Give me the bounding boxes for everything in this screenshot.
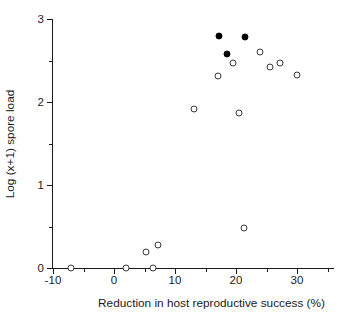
y-tick-minor <box>49 61 52 62</box>
x-tick-label-0: 0 <box>111 274 118 286</box>
x-axis-line <box>52 268 334 269</box>
data-point-filled <box>215 33 222 40</box>
data-point-open <box>123 265 130 272</box>
x-tick-label--10: -10 <box>45 274 62 286</box>
y-axis-line <box>52 19 53 269</box>
data-point-open <box>190 106 197 113</box>
x-tick-minor <box>84 269 85 272</box>
data-point-open <box>154 241 161 248</box>
y-axis-title: Log (x+1) spore load <box>3 90 17 199</box>
data-point-open <box>236 109 243 116</box>
data-point-open <box>294 71 301 78</box>
y-tick-label-3: 3 <box>38 13 45 25</box>
y-tick-label-0: 0 <box>38 262 45 274</box>
y-tick-minor <box>49 144 52 145</box>
data-point-open <box>68 265 75 272</box>
data-point-open <box>214 73 221 80</box>
x-tick-label-10: 10 <box>169 274 182 286</box>
data-point-filled <box>242 34 249 41</box>
data-point-filled <box>223 50 230 57</box>
data-point-open <box>240 225 247 232</box>
y-tick-label-1: 1 <box>38 179 45 191</box>
x-tick-minor <box>206 269 207 272</box>
y-tick-2 <box>47 102 52 103</box>
y-tick-label-2: 2 <box>38 96 45 108</box>
y-tick-minor <box>49 227 52 228</box>
data-point-open <box>150 265 157 272</box>
data-point-open <box>267 64 274 71</box>
scatter-plot-figure: -100102030 0123 Reduction in host reprod… <box>0 0 341 324</box>
y-tick-0 <box>47 268 52 269</box>
data-point-open <box>229 59 236 66</box>
y-tick-3 <box>47 19 52 20</box>
x-tick-minor <box>267 269 268 272</box>
x-axis-title: Reduction in host reproductive success (… <box>98 296 325 310</box>
data-point-open <box>276 59 283 66</box>
x-tick-minor <box>328 269 329 272</box>
data-point-open <box>256 49 263 56</box>
x-tick-label-20: 20 <box>230 274 243 286</box>
data-point-open <box>143 249 150 256</box>
x-tick-minor <box>145 269 146 272</box>
plot-area: -100102030 0123 <box>0 0 341 324</box>
y-tick-1 <box>47 185 52 186</box>
x-tick-label-30: 30 <box>291 274 304 286</box>
